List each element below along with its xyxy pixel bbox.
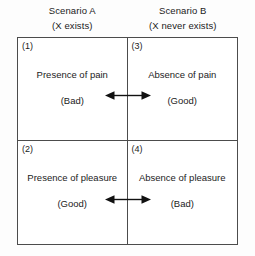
diagram-canvas: Scenario A (X exists) Scenario B (X neve… — [0, 0, 255, 256]
scenario-a-subtitle: (X exists) — [17, 18, 128, 33]
quadrant-2-label: Presence of pleasure — [18, 171, 127, 184]
quadrant-cell-3: (3) Absence of pain (Good) — [128, 38, 238, 141]
quadrant-matrix: (1) Presence of pain (Bad) (3) Absence o… — [17, 37, 238, 245]
quadrant-2-body: Presence of pleasure (Good) — [18, 171, 127, 210]
quadrant-4-body: Absence of pleasure (Bad) — [128, 171, 238, 210]
quadrant-4-label: Absence of pleasure — [128, 171, 238, 184]
quadrant-cell-2: (2) Presence of pleasure (Good) — [18, 141, 128, 244]
quadrant-3-evaluation: (Good) — [128, 94, 238, 107]
quadrant-2-evaluation: (Good) — [18, 197, 127, 210]
quadrant-1-number: (1) — [22, 41, 33, 52]
column-header-scenario-a: Scenario A (X exists) — [17, 3, 128, 35]
quadrant-1-label: Presence of pain — [18, 68, 127, 81]
quadrant-4-number: (4) — [132, 144, 143, 155]
quadrant-3-body: Absence of pain (Good) — [128, 68, 238, 107]
quadrant-cell-4: (4) Absence of pleasure (Bad) — [128, 141, 238, 244]
quadrant-4-evaluation: (Bad) — [128, 197, 238, 210]
scenario-b-title: Scenario B — [128, 3, 239, 18]
scenario-b-subtitle: (X never exists) — [128, 18, 239, 33]
scenario-a-title: Scenario A — [17, 3, 128, 18]
quadrant-cell-1: (1) Presence of pain (Bad) — [18, 38, 128, 141]
quadrant-3-number: (3) — [132, 41, 143, 52]
quadrant-2-number: (2) — [22, 144, 33, 155]
quadrant-3-label: Absence of pain — [128, 68, 238, 81]
column-header-scenario-b: Scenario B (X never exists) — [128, 3, 239, 35]
column-headers: Scenario A (X exists) Scenario B (X neve… — [17, 3, 238, 35]
quadrant-1-evaluation: (Bad) — [18, 94, 127, 107]
quadrant-1-body: Presence of pain (Bad) — [18, 68, 127, 107]
